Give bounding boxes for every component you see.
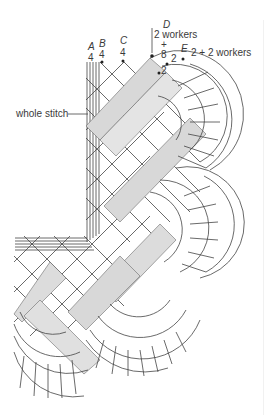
label-inner-pair-2: 2 <box>161 66 167 76</box>
label-b-count: 4 <box>99 50 105 60</box>
page-edge <box>263 20 264 415</box>
label-b-letter: B <box>99 39 106 49</box>
cloth-band-2 <box>14 118 206 374</box>
scallop-middle <box>150 167 244 278</box>
label-c-letter: C <box>120 36 127 46</box>
label-inner-pair-1: 2 <box>171 54 177 64</box>
label-a-letter: A <box>88 42 95 52</box>
label-e-letter: E <box>181 44 188 54</box>
whole-stitch-callout: whole stitch <box>16 109 68 119</box>
label-a-count: 4 <box>88 53 94 63</box>
lace-diagram <box>0 0 269 415</box>
edge-passives-horizontal <box>15 238 94 250</box>
label-d-count: 8 <box>161 50 167 60</box>
label-e-text: 2 + 2 workers <box>191 48 251 58</box>
label-c-count: 4 <box>120 48 126 58</box>
